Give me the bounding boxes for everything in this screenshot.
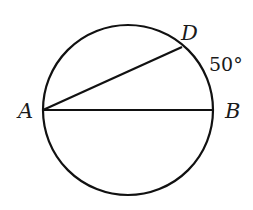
point-d-label: D xyxy=(180,21,198,45)
point-a-label: A xyxy=(16,99,33,123)
chord-ad xyxy=(43,47,182,110)
geometry-diagram: A B D 50° xyxy=(0,0,253,210)
point-b-label: B xyxy=(224,99,240,123)
arc-db-angle-label: 50° xyxy=(209,53,243,75)
